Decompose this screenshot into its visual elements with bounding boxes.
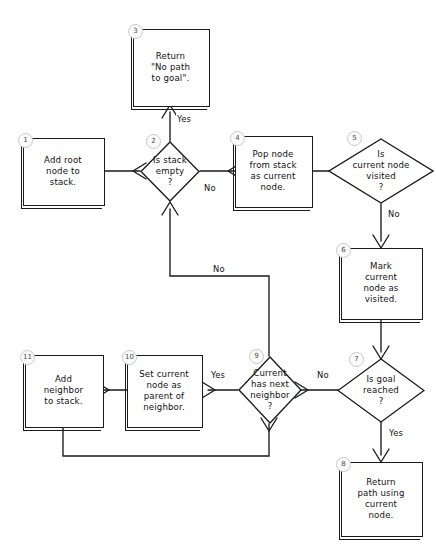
node-5-is-current-visited[interactable]: Is current node visited ? [328,138,434,204]
node-10-label: Set current node as parent of neighbor. [127,355,201,426]
node-4-label: Pop node from stack as current node. [235,136,311,206]
node-9-has-next-neighbor[interactable]: Current has next neighbor ? [238,356,302,424]
badge-3: 3 [128,24,143,39]
node-6-mark-visited[interactable]: Mark current node as visited. [341,248,421,318]
node-3-label: Return "No path to goal". [133,29,208,105]
node-8-label: Return path using current node. [341,462,421,535]
node-4-pop-node[interactable]: Pop node from stack as current node. [235,136,311,206]
edge-11-to-9-loop [63,424,269,456]
edge-label-no-2-to-4: No [203,183,217,193]
node-7-is-goal-reached[interactable]: Is goal reached ? [337,358,425,423]
node-6-label: Mark current node as visited. [341,248,421,318]
node-2-is-stack-empty[interactable]: Is stack empty ? [140,141,200,202]
badge-10: 10 [122,350,137,365]
node-9-label: Current has next neighbor ? [238,356,302,424]
edge-label-no-9-to-2: No [212,264,226,274]
badge-1: 1 [18,133,33,148]
badge-11: 11 [20,350,35,365]
node-1-label: Add root node to stack. [23,138,103,204]
badge-7: 7 [349,352,364,367]
badge-5: 5 [347,131,362,146]
node-2-label: Is stack empty ? [140,141,200,202]
node-1-add-root[interactable]: Add root node to stack. [23,138,103,204]
badge-2: 2 [146,134,161,149]
badge-8: 8 [336,457,351,472]
edge-label-yes-7-to-8: Yes [388,428,404,438]
edge-9-to-2-loop [170,209,269,356]
node-5-label: Is current node visited ? [328,138,434,204]
node-11-label: Add neighbor to stack. [25,355,102,426]
edge-label-no-7-to-9: No [316,370,330,380]
node-7-label: Is goal reached ? [337,358,425,423]
edge-label-no-5-to-6: No [387,209,401,219]
node-10-set-parent[interactable]: Set current node as parent of neighbor. [127,355,201,426]
badge-6: 6 [336,243,351,258]
node-8-return-path[interactable]: Return path using current node. [341,462,421,535]
badge-9: 9 [249,349,264,364]
badge-4: 4 [230,131,245,146]
edge-label-yes-9-to-10: Yes [210,370,226,380]
node-3-return-no-path[interactable]: Return "No path to goal". [133,29,208,105]
edge-label-yes-2-to-3: Yes [176,114,192,124]
flowchart-canvas: Add root node to stack. 1 Is stack empty… [0,0,436,553]
node-11-add-neighbor[interactable]: Add neighbor to stack. [25,355,102,426]
